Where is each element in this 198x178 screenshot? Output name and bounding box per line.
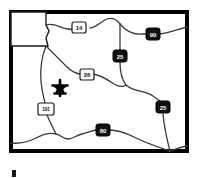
shield-i-25-north[interactable]: 25 [113,50,127,62]
us-191-shield-plate [38,103,54,115]
i-25-north-shield-plate [113,50,127,62]
i-90-shield-plate [146,28,160,40]
yellowstone-park-boundary [11,12,49,46]
shield-us-14[interactable]: 14 [72,22,86,33]
i-80-shield-plate [96,124,110,136]
map-container: 14 90 25 26 25 [0,0,198,178]
shield-i-90[interactable]: 90 [146,28,160,40]
wyoming-map-svg: 14 90 25 26 25 [0,0,198,178]
shield-us-191[interactable]: 191 [38,103,54,115]
i-25-south-shield-plate [156,101,170,113]
shield-i-80[interactable]: 80 [96,124,110,136]
bottom-tick-mark [12,170,16,177]
us-14-shield-plate [72,22,86,33]
us-26-shield-plate [80,69,94,80]
shield-i-25-south[interactable]: 25 [156,101,170,113]
shield-us-26[interactable]: 26 [80,69,94,80]
